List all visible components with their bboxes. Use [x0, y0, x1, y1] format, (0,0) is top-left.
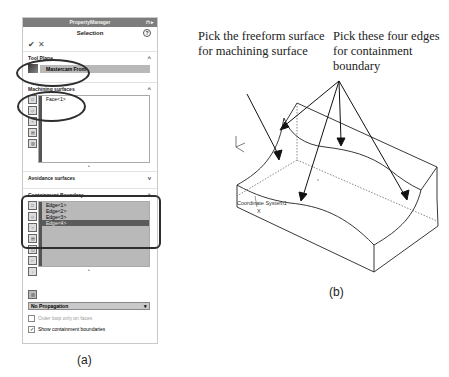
caption-b: (b): [329, 285, 344, 299]
x-axis-label: X: [257, 208, 261, 214]
part-model-drawing: [0, 0, 449, 377]
coordinate-triad-icon: [236, 136, 245, 152]
coordinate-system-label: Coordinate System1: [237, 200, 287, 206]
